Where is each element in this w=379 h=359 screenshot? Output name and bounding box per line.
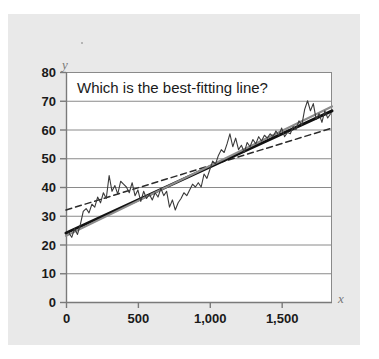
x-axis-tick-label: 0 xyxy=(63,311,70,326)
y-axis-label: y xyxy=(60,57,68,72)
x-axis-label: x xyxy=(337,291,344,306)
y-axis-tick-label: 50 xyxy=(42,151,56,166)
y-axis-ticks-group: 01020304050607080 xyxy=(42,65,66,310)
x-axis-tick-label: 1,000 xyxy=(194,311,227,326)
x-axis-ticks-group: 05001,0001,500 xyxy=(63,302,299,326)
x-axis-tick-label: 500 xyxy=(128,311,150,326)
y-axis-tick-label: 30 xyxy=(42,209,56,224)
speck-artifact xyxy=(81,42,83,44)
y-axis-tick-label: 40 xyxy=(42,180,56,195)
y-axis-tick-label: 10 xyxy=(42,266,56,281)
y-axis-tick-label: 70 xyxy=(42,94,56,109)
figure-container: 01020304050607080 05001,0001,500 y x Whi… xyxy=(0,0,379,359)
x-axis-tick-label: 1,500 xyxy=(266,311,299,326)
y-axis-tick-label: 0 xyxy=(49,295,56,310)
y-axis-tick-label: 60 xyxy=(42,123,56,138)
y-axis-tick-label: 80 xyxy=(42,65,56,80)
y-axis-tick-label: 20 xyxy=(42,238,56,253)
chart-title: Which is the best-fitting line? xyxy=(77,79,268,96)
scatter-plot-chart: 01020304050607080 05001,0001,500 y x Whi… xyxy=(0,0,379,359)
